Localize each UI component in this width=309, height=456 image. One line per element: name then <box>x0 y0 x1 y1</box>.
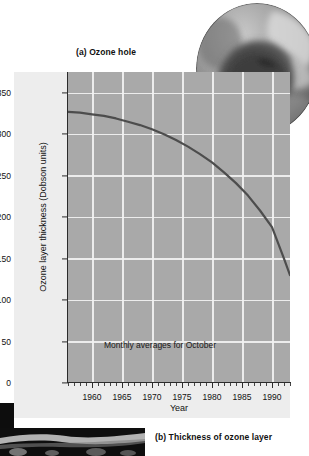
x-tick-mark <box>140 383 141 386</box>
x-axis-label: Year <box>68 403 290 413</box>
y-tick-label: 350 <box>0 88 11 98</box>
x-tick-mark <box>260 383 261 386</box>
x-tick-mark <box>122 383 123 388</box>
y-tick-label: 0 <box>6 378 11 388</box>
x-tick-label: 1990 <box>263 392 282 402</box>
y-tick-mark <box>62 341 68 342</box>
x-tick-label: 1965 <box>113 392 132 402</box>
x-tick-mark <box>230 383 231 386</box>
x-tick-mark <box>284 383 285 386</box>
x-tick-mark <box>188 383 189 386</box>
x-tick-label: 1975 <box>173 392 192 402</box>
x-tick-mark <box>68 383 69 386</box>
x-tick-mark <box>164 383 165 386</box>
x-tick-mark <box>236 383 237 386</box>
y-tick-mark <box>62 258 68 259</box>
caption-a: (a) Ozone hole <box>76 47 136 57</box>
y-tick-mark <box>62 175 68 176</box>
x-tick-mark <box>254 383 255 386</box>
x-tick-mark <box>146 383 147 386</box>
antarctic-photo <box>0 428 145 456</box>
antarctic-photo-svg <box>0 428 145 456</box>
x-tick-mark <box>206 383 207 386</box>
x-tick-label: 1985 <box>233 392 252 402</box>
x-tick-mark <box>74 383 75 386</box>
x-tick-mark <box>182 383 183 388</box>
x-tick-mark <box>272 383 273 388</box>
x-tick-mark <box>104 383 105 386</box>
x-tick-label: 1970 <box>143 392 162 402</box>
x-tick-mark <box>116 383 117 386</box>
y-tick-label: 250 <box>0 171 11 181</box>
x-tick-label: 1980 <box>203 392 222 402</box>
y-axis-line <box>67 72 68 383</box>
figure-root: (a) Ozone hole Monthly averages for Octo… <box>0 0 309 456</box>
y-tick-label: 100 <box>0 295 11 305</box>
x-axis-line <box>67 382 291 383</box>
x-tick-mark <box>110 383 111 386</box>
plot-area: Monthly averages for October <box>68 72 290 383</box>
y-tick-mark <box>62 134 68 135</box>
caption-b: (b) Thickness of ozone layer <box>155 432 272 442</box>
x-tick-mark <box>128 383 129 386</box>
x-tick-mark <box>194 383 195 386</box>
x-tick-mark <box>170 383 171 386</box>
y-tick-mark <box>62 299 68 300</box>
x-tick-mark <box>218 383 219 386</box>
x-tick-mark <box>248 383 249 386</box>
x-tick-mark <box>86 383 87 386</box>
chart-panel: Monthly averages for October 05010015020… <box>14 72 290 418</box>
y-tick-mark <box>62 217 68 218</box>
x-tick-mark <box>176 383 177 386</box>
x-tick-mark <box>266 383 267 386</box>
x-tick-mark <box>224 383 225 386</box>
y-tick-label: 300 <box>0 129 11 139</box>
x-tick-mark <box>212 383 213 388</box>
y-tick-mark <box>62 92 68 93</box>
y-tick-label: 200 <box>0 212 11 222</box>
x-tick-mark <box>200 383 201 386</box>
x-tick-label: 1960 <box>83 392 102 402</box>
chart-annotation: Monthly averages for October <box>104 340 216 350</box>
x-tick-mark <box>98 383 99 386</box>
x-tick-mark <box>80 383 81 386</box>
x-tick-mark <box>278 383 279 386</box>
y-tick-label: 150 <box>0 254 11 264</box>
x-tick-mark <box>92 383 93 388</box>
y-tick-label: 50 <box>2 337 11 347</box>
x-tick-mark <box>290 383 291 386</box>
ozone-thickness-curve <box>68 72 290 383</box>
x-tick-mark <box>134 383 135 386</box>
x-tick-mark <box>158 383 159 386</box>
x-tick-mark <box>242 383 243 388</box>
x-tick-mark <box>152 383 153 388</box>
y-axis-label: Ozone layer thickness (Dobson units) <box>38 92 48 342</box>
